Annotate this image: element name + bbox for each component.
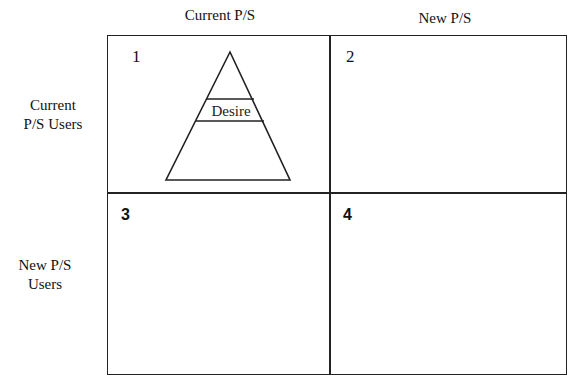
pyramid-band-label: Desire	[211, 103, 250, 119]
pyramid-diagram: Desire	[0, 0, 585, 389]
